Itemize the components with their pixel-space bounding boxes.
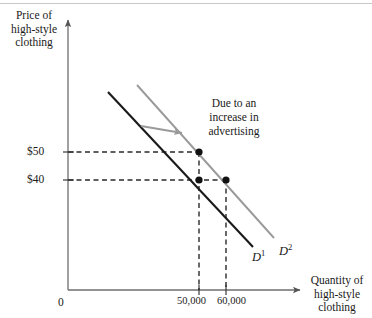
x-tick-label-60000: 60,000 xyxy=(217,295,246,306)
y-axis-title: Price ofhigh-styleclothing xyxy=(2,9,66,50)
origin-label: 0 xyxy=(58,296,64,308)
d1-letter: D xyxy=(252,250,261,264)
y-axis-title-line1: Price of xyxy=(16,9,52,21)
x-axis-title-line2: high-style xyxy=(314,288,360,300)
x-tick-label-50000: 50,000 xyxy=(177,295,206,306)
shift-annotation-line2: increase in xyxy=(209,111,259,123)
demand-curve-d1-label: D1 xyxy=(252,248,265,265)
marker-60000-40 xyxy=(222,176,229,183)
y-axis-title-line3: clothing xyxy=(15,36,53,48)
y-axis-title-line2: high-style xyxy=(11,23,57,35)
y-tick-label-50: $50 xyxy=(27,145,44,157)
d2-letter: D xyxy=(279,244,288,258)
shift-annotation: Due to anincrease inadvertising xyxy=(188,96,280,138)
marker-50000-40 xyxy=(195,176,202,183)
x-axis-title-line3: clothing xyxy=(318,301,356,313)
marker-50000-50 xyxy=(195,148,202,155)
y-tick-label-40: $40 xyxy=(27,173,44,185)
chart-canvas: Price ofhigh-styleclothing Quantity ofhi… xyxy=(0,0,372,318)
shift-annotation-line1: Due to an xyxy=(212,97,257,109)
x-axis-title-line1: Quantity of xyxy=(311,274,364,286)
d2-superscript: 2 xyxy=(288,242,292,252)
shift-annotation-line3: advertising xyxy=(208,125,259,137)
demand-curve-d2-label: D2 xyxy=(279,242,292,259)
d1-superscript: 1 xyxy=(261,248,265,258)
x-axis-title: Quantity ofhigh-styleclothing xyxy=(303,274,371,315)
